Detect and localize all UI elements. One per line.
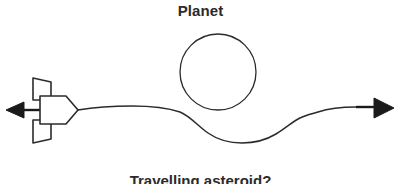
diagram-canvas bbox=[0, 0, 401, 184]
right-arrow-head bbox=[374, 98, 394, 118]
figure-caption-label: Travelling asteroid? bbox=[0, 172, 401, 184]
figure-root: Planet Travelling asteroid? bbox=[0, 0, 401, 184]
spacecraft-body bbox=[40, 96, 78, 124]
planet-circle bbox=[180, 34, 256, 110]
trajectory-path bbox=[78, 106, 372, 143]
left-arrow-head bbox=[6, 102, 24, 118]
